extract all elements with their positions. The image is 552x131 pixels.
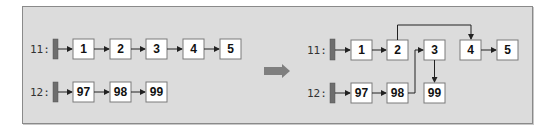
node-2: 2 xyxy=(110,39,131,59)
svg-text:98: 98 xyxy=(391,86,405,100)
node-98: 98 xyxy=(110,82,131,102)
svg-text:3: 3 xyxy=(431,43,438,57)
linked-list-diagram: 11: 1 2 3 4 5 12: xyxy=(0,0,552,131)
node-5-after: 5 xyxy=(497,40,518,60)
after-state: 11: 1 2 3 4 5 12: xyxy=(307,25,518,103)
svg-text:4: 4 xyxy=(190,42,197,56)
node-98-after: 98 xyxy=(387,83,408,103)
before-state: 11: 1 2 3 4 5 12: xyxy=(30,39,241,102)
list-head-12 xyxy=(53,82,58,102)
node-97-after: 97 xyxy=(351,83,372,103)
list-head-11 xyxy=(53,39,58,59)
svg-text:98: 98 xyxy=(114,85,128,99)
node-99-after: 99 xyxy=(424,83,445,103)
svg-text:3: 3 xyxy=(153,42,160,56)
svg-text:97: 97 xyxy=(77,85,91,99)
node-4: 4 xyxy=(183,39,204,59)
list-head-12-after xyxy=(330,83,335,103)
node-1: 1 xyxy=(73,39,94,59)
node-3: 3 xyxy=(146,39,167,59)
right-arrow-icon xyxy=(264,64,290,78)
svg-text:5: 5 xyxy=(227,42,234,56)
node-3-after: 3 xyxy=(424,40,445,60)
node-97: 97 xyxy=(73,82,94,102)
node-2-after: 2 xyxy=(387,40,408,60)
list-label-12-after: 12: xyxy=(307,87,327,100)
svg-text:99: 99 xyxy=(428,86,442,100)
node-1-after: 1 xyxy=(351,40,372,60)
list-label-11-after: 11: xyxy=(307,44,327,57)
svg-text:2: 2 xyxy=(117,42,124,56)
svg-text:5: 5 xyxy=(504,43,511,57)
svg-text:1: 1 xyxy=(358,43,365,57)
node-99: 99 xyxy=(146,82,167,102)
svg-text:99: 99 xyxy=(150,85,164,99)
list-label-12: 12: xyxy=(30,86,50,99)
svg-text:97: 97 xyxy=(355,86,369,100)
list-head-11-after xyxy=(330,39,335,60)
svg-text:4: 4 xyxy=(467,43,474,57)
list-label-11: 11: xyxy=(30,43,50,56)
node-4-after: 4 xyxy=(460,40,481,60)
svg-text:2: 2 xyxy=(394,43,401,57)
svg-text:1: 1 xyxy=(80,42,87,56)
node-5: 5 xyxy=(220,39,241,59)
